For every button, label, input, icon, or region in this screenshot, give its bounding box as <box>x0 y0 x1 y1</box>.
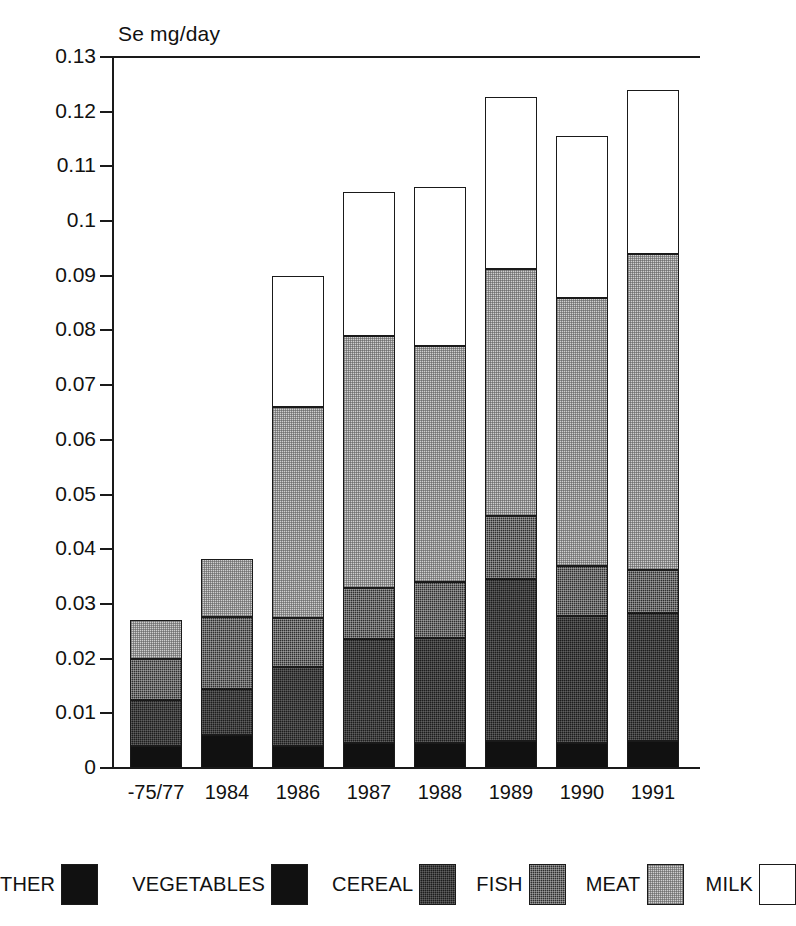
bar-1990[interactable] <box>556 57 608 768</box>
bar-segment-fish <box>272 618 324 667</box>
bar-segment-meat <box>627 254 679 570</box>
chart-title: Se mg/day <box>118 22 220 46</box>
bar-segment-fish <box>556 566 608 616</box>
bar--75-77[interactable] <box>130 57 182 768</box>
legend-swatch-ther <box>61 864 98 905</box>
y-axis-tick-label: 0.02 <box>20 647 96 668</box>
y-axis-tick-label: 0.12 <box>20 100 96 121</box>
bar-segment-milk <box>343 192 395 336</box>
bar-segment-cereal <box>130 700 182 746</box>
bar-segment-vegetables <box>485 741 537 768</box>
bar-segment-fish <box>343 588 395 640</box>
bar-segment-meat <box>414 346 466 582</box>
legend-label: CEREAL <box>332 873 413 896</box>
bar-segment-milk <box>627 90 679 254</box>
bar-segment-cereal <box>485 579 537 740</box>
legend-label: THER <box>0 873 55 896</box>
y-axis-tick-label: 0.03 <box>20 592 96 613</box>
bar-segment-meat <box>485 269 537 516</box>
legend-swatch-cereal <box>419 864 456 905</box>
y-axis-tick-label: 0.1 <box>20 209 96 230</box>
y-axis-tick-label: 0 <box>20 756 96 777</box>
bar-segment-vegetables <box>272 746 324 768</box>
bar-segment-vegetables <box>130 746 182 768</box>
legend-item-ther[interactable]: THER <box>0 860 98 908</box>
bar-segment-milk <box>485 97 537 269</box>
chart-legend: THERVEGETABLESCEREALFISHMEATMILK <box>0 860 755 908</box>
bar-segment-fish <box>414 582 466 638</box>
legend-item-meat[interactable]: MEAT <box>586 860 684 908</box>
bar-1984[interactable] <box>201 57 253 768</box>
bar-1991[interactable] <box>627 57 679 768</box>
bar-segment-fish <box>130 659 182 700</box>
y-axis-tick-label: 0.09 <box>20 264 96 285</box>
legend-label: MEAT <box>586 873 641 896</box>
bar-segment-fish <box>201 617 253 689</box>
bar-segment-vegetables <box>414 743 466 768</box>
legend-label: MILK <box>706 873 753 896</box>
bar-segment-meat <box>343 336 395 588</box>
y-axis-tick-label: 0.06 <box>20 428 96 449</box>
legend-swatch-fish <box>529 864 566 905</box>
legend-item-vegetables[interactable]: VEGETABLES <box>132 860 308 908</box>
y-axis-tick-label: 0.13 <box>20 45 96 66</box>
bar-segment-meat <box>556 298 608 566</box>
bar-segment-vegetables <box>556 743 608 768</box>
y-axis-tick-label: 0.05 <box>20 483 96 504</box>
bar-segment-milk <box>272 276 324 407</box>
bar-1988[interactable] <box>414 57 466 768</box>
bar-segment-meat <box>201 559 253 617</box>
bar-segment-cereal <box>272 667 324 746</box>
bar-segment-vegetables <box>627 741 679 768</box>
bar-1986[interactable] <box>272 57 324 768</box>
y-axis-tick-label: 0.08 <box>20 318 96 339</box>
bar-segment-cereal <box>556 616 608 743</box>
bar-segment-fish <box>627 570 679 613</box>
y-axis-tick-label: 0.01 <box>20 701 96 722</box>
legend-label: VEGETABLES <box>132 873 265 896</box>
legend-item-cereal[interactable]: CEREAL <box>332 860 456 908</box>
legend-swatch-meat <box>647 864 684 905</box>
y-axis-tick-label: 0.07 <box>20 373 96 394</box>
legend-swatch-vegetables <box>271 864 308 905</box>
bar-segment-cereal <box>343 639 395 743</box>
bar-segment-milk <box>556 136 608 297</box>
x-axis-tick-label: 1991 <box>611 781 695 804</box>
y-axis-tick-label: 0.04 <box>20 537 96 558</box>
bar-segment-milk <box>414 187 466 346</box>
plot-area <box>112 57 700 768</box>
bar-segment-vegetables <box>343 743 395 768</box>
y-axis-tick-label: 0.11 <box>20 154 96 175</box>
legend-item-fish[interactable]: FISH <box>476 860 565 908</box>
bar-segment-meat <box>272 407 324 618</box>
legend-swatch-milk <box>759 864 796 905</box>
bar-segment-cereal <box>201 689 253 735</box>
bar-segment-cereal <box>414 638 466 743</box>
bar-segment-fish <box>485 516 537 579</box>
bar-segment-vegetables <box>201 735 253 768</box>
y-axis-labels: 0.130.120.110.10.090.080.070.060.050.040… <box>8 0 96 926</box>
legend-item-milk[interactable]: MILK <box>706 860 796 908</box>
bar-segment-meat <box>130 620 182 658</box>
bar-1989[interactable] <box>485 57 537 768</box>
bar-segment-cereal <box>627 613 679 740</box>
legend-label: FISH <box>476 873 522 896</box>
bar-1987[interactable] <box>343 57 395 768</box>
